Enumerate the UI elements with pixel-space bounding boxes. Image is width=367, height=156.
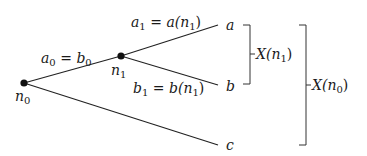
node-n0: [20, 79, 27, 86]
label-edge-b1: b1 = b(n1): [133, 80, 204, 98]
label-x-n0: X(n0): [311, 77, 348, 95]
leaf-c: c: [226, 137, 234, 153]
label-x-n1: X(n1): [255, 46, 292, 64]
label-n1: n1: [111, 62, 126, 80]
label-n0: n0: [15, 88, 30, 106]
leaf-a: a: [226, 17, 234, 33]
label-edge-a1: a1 = a(n1): [131, 14, 201, 32]
bracket-x-n1: [243, 25, 255, 84]
node-n1: [117, 52, 124, 59]
leaf-b: b: [226, 78, 235, 94]
game-tree-diagram: n0 n1 a0 = b0 a1 = a(n1) b1 = b(n1) a b …: [0, 0, 367, 156]
label-edge-a0-b0: a0 = b0: [41, 50, 92, 68]
bracket-x-n0: [299, 25, 311, 145]
